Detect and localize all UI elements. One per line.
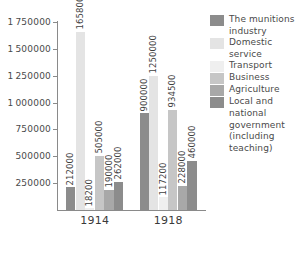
plot-area: 2120001658000182005050001900002620009000…	[58, 22, 205, 210]
bar	[178, 186, 187, 210]
legend-item[interactable]: Domestic service	[210, 37, 302, 60]
bar	[140, 113, 149, 210]
bar-value-label: 460000	[187, 126, 196, 159]
legend-item[interactable]: The munitions industry	[210, 14, 302, 37]
y-axis-tick-label: 1 000000	[8, 99, 51, 108]
bar-value-label: 1250000	[149, 35, 158, 74]
bar-value-label: 190000	[104, 155, 113, 188]
y-axis-tick-label: 1 750000	[8, 18, 51, 27]
y-axis-tick-label: 500000	[15, 152, 51, 161]
chart-legend: The munitions industryDomestic serviceTr…	[210, 14, 302, 154]
x-axis-line	[57, 210, 206, 211]
bar-value-label: 262000	[114, 147, 123, 180]
y-axis-tick-label: 1 250000	[8, 72, 51, 81]
legend-swatch-icon	[210, 97, 224, 108]
y-axis-tick-label: 1 500000	[8, 45, 51, 54]
bar-value-label: 18200	[85, 179, 94, 207]
legend-item-label: Local and national government (including…	[229, 96, 302, 154]
bar-value-label: 212000	[66, 152, 75, 185]
bar-value-label: 505000	[94, 121, 103, 154]
legend-swatch-icon	[210, 15, 224, 26]
bar-value-label: 1658000	[75, 0, 84, 30]
bar	[159, 197, 168, 210]
legend-item-label: The munitions industry	[229, 14, 302, 37]
bar-value-label: 228000	[178, 150, 187, 183]
page-edge	[0, 247, 303, 254]
legend-item-label: Transport	[229, 60, 272, 72]
bar	[66, 187, 75, 210]
legend-swatch-icon	[210, 61, 224, 72]
bar-chart-figure: 2500005000007500001 0000001 2500001 5000…	[0, 0, 303, 254]
bar-value-label: 900000	[139, 78, 148, 111]
bar	[114, 182, 123, 210]
y-axis-tick-label: 250000	[15, 179, 51, 188]
legend-item-label: Agriculture	[229, 84, 280, 96]
y-axis-tick-label: 750000	[15, 125, 51, 134]
x-axis-tick-label: 1918	[148, 215, 188, 226]
bar	[85, 208, 94, 210]
bar-value-label: 117200	[158, 162, 167, 195]
legend-item-label: Domestic service	[229, 37, 302, 60]
legend-item-label: Business	[229, 72, 270, 84]
x-axis-tick-label: 1914	[75, 215, 115, 226]
legend-swatch-icon	[210, 85, 224, 96]
legend-swatch-icon	[210, 38, 224, 49]
bar-value-label: 934500	[168, 75, 177, 108]
legend-item[interactable]: Business	[210, 72, 302, 84]
legend-item[interactable]: Local and national government (including…	[210, 96, 302, 154]
legend-item[interactable]: Agriculture	[210, 84, 302, 96]
legend-item[interactable]: Transport	[210, 60, 302, 72]
bar	[104, 190, 113, 210]
legend-swatch-icon	[210, 73, 224, 84]
bar	[187, 161, 196, 210]
